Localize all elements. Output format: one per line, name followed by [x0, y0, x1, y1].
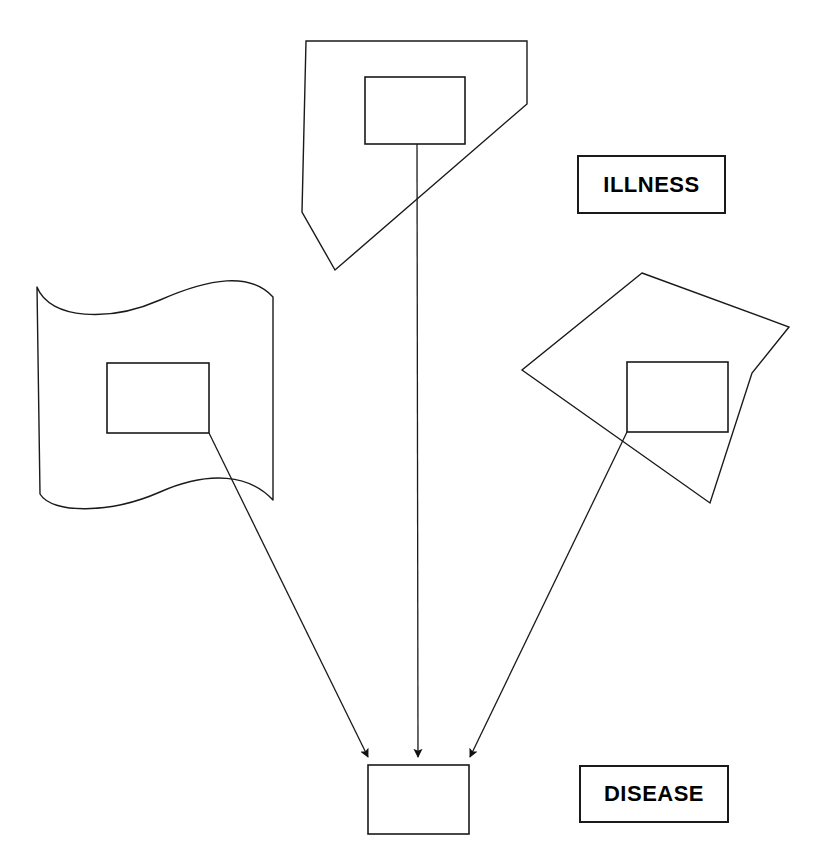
connector-right-kite-to-disease: [470, 432, 627, 757]
right-kite-outline: [522, 273, 789, 503]
illness-legend-label: ILLNESS: [603, 172, 699, 198]
left-flag-outline: [37, 281, 273, 509]
illness-shape-left-flag: [37, 281, 273, 509]
top-pentagon-inner-rect: [365, 77, 465, 144]
illness-shape-right-kite: [522, 273, 789, 503]
diagram-drawing: [0, 0, 824, 860]
top-pentagon-outline: [302, 41, 527, 270]
right-kite-inner-rect: [627, 362, 728, 432]
connector-arrows: [209, 144, 627, 757]
connector-top-pentagon-to-disease: [417, 144, 418, 757]
illness-legend-box: ILLNESS: [577, 155, 726, 214]
connector-left-flag-to-disease: [209, 433, 368, 757]
diagram-canvas: ILLNESS DISEASE: [0, 0, 824, 860]
disease-rectangle: [368, 765, 469, 834]
disease-legend-box: DISEASE: [579, 765, 729, 823]
left-flag-inner-rect: [107, 363, 209, 433]
disease-legend-label: DISEASE: [604, 781, 704, 807]
illness-shape-top-pentagon: [302, 41, 527, 270]
